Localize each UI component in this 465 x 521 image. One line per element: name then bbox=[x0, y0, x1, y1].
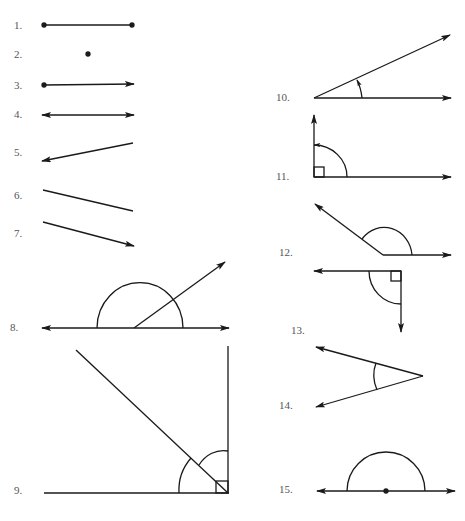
figure-11-right bbox=[314, 115, 451, 177]
figure-3-ray bbox=[42, 83, 134, 87]
geometry-figures bbox=[0, 0, 465, 521]
figure-6-segment bbox=[43, 190, 133, 211]
figure-15-straight bbox=[317, 452, 455, 493]
figure-8-angles bbox=[42, 262, 229, 328]
figure-5-ray bbox=[42, 143, 133, 161]
figure-7-ray bbox=[43, 222, 134, 246]
figure-10-acute bbox=[314, 35, 451, 98]
figure-9-right-angle bbox=[44, 346, 229, 493]
figure-14-acute bbox=[316, 347, 423, 407]
figure-13-right bbox=[314, 271, 401, 332]
figure-1-segment bbox=[42, 23, 134, 27]
figure-12-obtuse bbox=[315, 204, 451, 255]
figure-2-point bbox=[86, 52, 90, 56]
